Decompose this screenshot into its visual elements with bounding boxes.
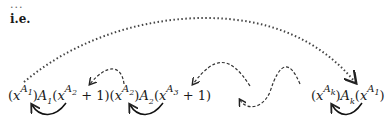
formula-left: (xA1)A1(xA2 + 1)(xA2)A2(xA3 + 1) — [8, 86, 211, 106]
long-dotted-arrow — [24, 18, 355, 82]
formula-right: (xAk)Ak(xA1) — [311, 86, 385, 106]
dashed-hop-arrow — [240, 67, 300, 107]
dashed-hop-arrow — [193, 62, 250, 86]
arrow-diagram — [0, 0, 385, 127]
dashed-hop-arrow — [90, 69, 124, 84]
